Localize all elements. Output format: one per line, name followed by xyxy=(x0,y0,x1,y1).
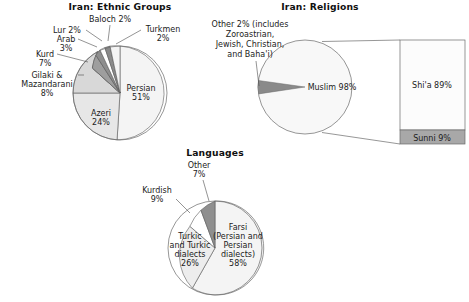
religions-label-other-line4: and Baha'i) xyxy=(227,50,273,59)
ethnic-label-arab-pct: 3% xyxy=(60,44,73,53)
ethnic-label-gilaki-line1: Gilaki & xyxy=(31,71,62,80)
languages-label-kurdish: Kurdish xyxy=(142,186,172,195)
languages-label-farsi-line1: Farsi xyxy=(229,223,247,232)
religions-label-shia: Shi'a 89% xyxy=(412,81,452,90)
ethnic-label-baloch: Baloch 2% xyxy=(89,15,132,24)
ethnic-label-gilaki-line2: Mazandarani xyxy=(21,80,72,89)
languages-label-other: Other xyxy=(188,161,211,170)
religions-chart-title: Iran: Religions xyxy=(281,1,359,12)
religions-label-muslim: Muslim 98% xyxy=(308,83,357,92)
ethnic-label-arab: Arab xyxy=(57,35,76,44)
languages-label-turkic-pct: 26% xyxy=(181,259,199,268)
ethnic-label-turkmen: Turkmen xyxy=(145,25,180,34)
languages-label-turkic-line2: and Turkic xyxy=(170,241,211,250)
ethnic-label-lur: Lur 2% xyxy=(53,26,81,35)
ethnic-label-persian-pct: 51% xyxy=(132,93,150,102)
ethnic-label-turkmen-pct: 2% xyxy=(157,34,170,43)
ethnic-label-persian: Persian xyxy=(126,84,155,93)
ethnic-chart-title: Iran: Ethnic Groups xyxy=(69,1,172,12)
ethnic-label-azeri: Azeri xyxy=(91,109,111,118)
ethnic-label-kurd: Kurd xyxy=(36,50,54,59)
religions-label-other-line3: Jewish, Christian, xyxy=(215,40,285,49)
languages-label-farsi-line4: dialects) xyxy=(221,250,255,259)
ethnic-label-azeri-pct: 24% xyxy=(92,118,110,127)
religions-label-other-line2: Zoroastrian, xyxy=(226,30,275,39)
religions-label-sunni: Sunni 9% xyxy=(413,134,451,143)
languages-label-kurdish-pct: 9% xyxy=(151,195,164,204)
languages-label-turkic-line3: dialects xyxy=(174,250,205,259)
languages-label-other-pct: 7% xyxy=(193,170,206,179)
religions-label-other-line1: Other 2% (includes xyxy=(212,20,289,29)
languages-label-farsi-pct: 58% xyxy=(229,259,247,268)
ethnic-label-kurd-pct: 7% xyxy=(39,59,52,68)
languages-label-turkic-line1: Turkic xyxy=(177,232,201,241)
infographic-canvas: Iran: Ethnic Groups Persian 51% Azeri 24… xyxy=(0,0,469,302)
languages-chart-title: Languages xyxy=(186,147,244,158)
ethnic-label-gilaki-pct: 8% xyxy=(41,89,54,98)
languages-label-farsi-line2: (Persian and xyxy=(213,232,263,241)
languages-label-farsi-line3: Persian xyxy=(223,241,252,250)
